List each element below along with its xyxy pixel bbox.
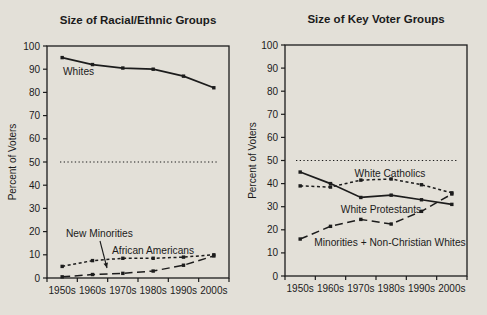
svg-text:50: 50 xyxy=(267,155,279,166)
svg-text:New Minorities: New Minorities xyxy=(66,228,133,239)
svg-text:Percent of Voters: Percent of Voters xyxy=(7,124,18,201)
svg-text:20: 20 xyxy=(267,224,279,235)
svg-text:1970s: 1970s xyxy=(109,285,136,296)
svg-text:30: 30 xyxy=(29,203,41,214)
svg-text:10: 10 xyxy=(29,249,41,260)
svg-text:50: 50 xyxy=(29,157,41,168)
svg-text:White Protestants: White Protestants xyxy=(341,204,421,215)
svg-text:2000s: 2000s xyxy=(438,283,465,294)
chart-title-racial-ethnic: Size of Racial/Ethnic Groups xyxy=(60,14,217,26)
svg-text:90: 90 xyxy=(29,64,41,75)
chart-plot-racial-ethnic: 01020304050607080901001950s1960s1970s198… xyxy=(7,41,229,297)
svg-text:1950s: 1950s xyxy=(49,285,76,296)
svg-text:60: 60 xyxy=(29,133,41,144)
svg-text:10: 10 xyxy=(267,247,279,258)
svg-text:40: 40 xyxy=(267,178,279,189)
svg-text:1990s: 1990s xyxy=(170,285,197,296)
chart-title-key-voter: Size of Key Voter Groups xyxy=(307,13,444,25)
svg-text:90: 90 xyxy=(267,63,279,74)
svg-text:1960s: 1960s xyxy=(317,283,344,294)
svg-text:0: 0 xyxy=(34,273,40,284)
svg-text:100: 100 xyxy=(261,40,278,51)
svg-text:White Catholics: White Catholics xyxy=(355,168,426,179)
svg-text:0: 0 xyxy=(272,271,278,282)
svg-text:100: 100 xyxy=(23,41,40,52)
svg-text:1950s: 1950s xyxy=(287,283,314,294)
svg-text:40: 40 xyxy=(29,180,41,191)
svg-text:70: 70 xyxy=(267,109,279,120)
chart-canvas-key-voter: Size of Key Voter Groups 010203040506070… xyxy=(244,0,487,315)
svg-text:1980s: 1980s xyxy=(378,283,405,294)
svg-text:1990s: 1990s xyxy=(408,283,435,294)
svg-text:30: 30 xyxy=(267,201,279,212)
svg-text:Whites: Whites xyxy=(63,66,94,77)
chart-plot-key-voter: 01020304050607080901001950s1960s1970s198… xyxy=(247,40,467,295)
svg-text:80: 80 xyxy=(29,87,41,98)
figure-two-line-charts: Size of Racial/Ethnic Groups 01020304050… xyxy=(0,0,487,315)
svg-text:80: 80 xyxy=(267,86,279,97)
svg-text:Percent of Voters: Percent of Voters xyxy=(247,122,258,199)
svg-text:1980s: 1980s xyxy=(140,285,167,296)
svg-text:20: 20 xyxy=(29,226,41,237)
chart-key-voter-groups: Size of Key Voter Groups 010203040506070… xyxy=(244,0,487,315)
svg-text:1960s: 1960s xyxy=(79,285,106,296)
svg-text:African Americans: African Americans xyxy=(112,245,194,256)
svg-text:2000s: 2000s xyxy=(200,285,227,296)
chart-canvas-racial-ethnic: Size of Racial/Ethnic Groups 01020304050… xyxy=(0,0,243,315)
svg-text:70: 70 xyxy=(29,110,41,121)
svg-text:60: 60 xyxy=(267,132,279,143)
chart-racial-ethnic-groups: Size of Racial/Ethnic Groups 01020304050… xyxy=(0,0,243,315)
svg-text:1970s: 1970s xyxy=(347,283,374,294)
svg-text:Minorities + Non-Christian Whi: Minorities + Non-Christian Whites xyxy=(314,237,465,248)
